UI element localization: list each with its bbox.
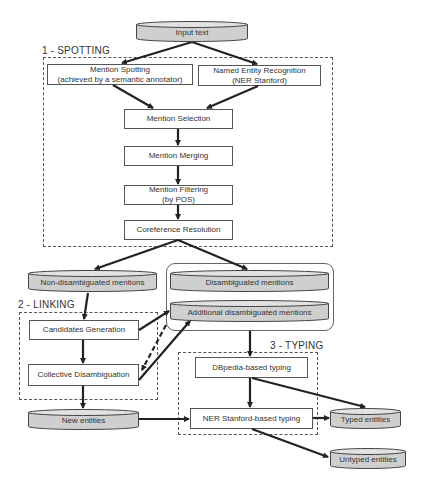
new-entities-cylinder: New entities — [28, 409, 139, 430]
untyped-entities-cylinder: Untyped entities — [330, 448, 406, 469]
input-text-label: Input text — [176, 26, 209, 37]
typed-entities-cylinder: Typed entities — [330, 408, 401, 429]
new-entities-label: New entities — [62, 414, 106, 425]
non-disambiguated-mentions-cylinder: Non-disambiguated mentions — [28, 270, 157, 292]
typed-entities-label: Typed entities — [341, 413, 390, 424]
disambiguated-mentions-label: Disambiguated mentions — [205, 276, 293, 287]
additional-disambiguated-mentions-label: Additional disambiguated mentions — [187, 306, 311, 317]
untyped-entities-label: Untyped entities — [339, 453, 396, 464]
pipeline-diagram: 1 - SPOTTING 2 - LINKING 3 - TYPING Inpu… — [0, 0, 423, 486]
disambiguated-mentions-cylinder: Disambiguated mentions — [170, 270, 329, 292]
additional-disambiguated-mentions-cylinder: Additional disambiguated mentions — [170, 300, 329, 322]
non-disambiguated-mentions-label: Non-disambiguated mentions — [40, 276, 144, 287]
input-text-cylinder: Input text — [136, 21, 248, 42]
